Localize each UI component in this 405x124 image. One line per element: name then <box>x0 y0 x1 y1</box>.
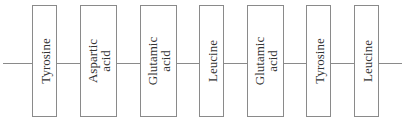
residue-box-6-tyrosine: Tyrosine <box>306 5 331 117</box>
residue-label: Tyrosine <box>312 38 325 83</box>
residue-label: Leucine <box>205 40 218 82</box>
residue-name-suffix: acid <box>99 39 112 83</box>
residue-box-4-leucine: Leucine <box>199 5 224 117</box>
residue-box-7-leucine: Leucine <box>354 5 379 117</box>
residue-name-suffix: acid <box>159 37 172 85</box>
residue-label: Aspartic acid <box>86 39 112 83</box>
residue-name: Leucine <box>205 40 218 82</box>
residue-box-3-glutamic-acid: Glutamic acid <box>140 5 177 117</box>
residue-label: Glutamic acid <box>253 37 279 85</box>
residue-name: Glutamic <box>253 37 266 85</box>
residue-box-1-tyrosine: Tyrosine <box>32 5 57 117</box>
residue-name: Tyrosine <box>38 38 51 83</box>
residue-box-5-glutamic-acid: Glutamic acid <box>247 5 284 117</box>
residue-label: Tyrosine <box>38 38 51 83</box>
residue-label: Glutamic acid <box>146 37 172 85</box>
residue-name: Aspartic <box>86 39 99 83</box>
residue-box-2-aspartic-acid: Aspartic acid <box>80 5 117 117</box>
residue-label: Leucine <box>360 40 373 82</box>
residue-name: Tyrosine <box>312 38 325 83</box>
residue-name: Leucine <box>360 40 373 82</box>
residue-name-suffix: acid <box>266 37 279 85</box>
residue-name: Glutamic <box>146 37 159 85</box>
